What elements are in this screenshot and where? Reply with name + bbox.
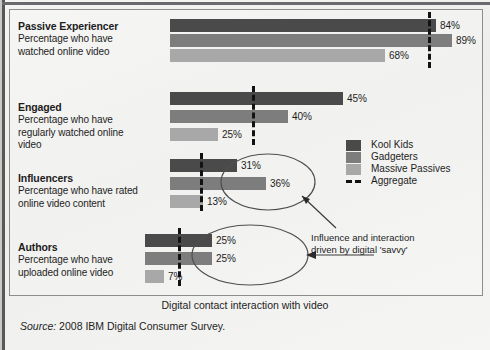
outer-frame-left — [2, 0, 5, 350]
legend-label: Gadgeters — [371, 151, 418, 163]
legend-swatch-icon — [346, 152, 361, 163]
x-axis-title: Digital contact interaction with video — [0, 299, 490, 311]
group-label-influencers: Influencers Percentage who have rated on… — [18, 172, 168, 210]
legend-label: Aggregate — [371, 175, 417, 187]
bar-value-engaged-gadgeters: 40% — [292, 110, 312, 123]
source-prefix: Source: — [20, 320, 56, 332]
annotation-text: Influence and interaction driven by digi… — [311, 232, 481, 255]
aggregate-line-passive-experiencer — [428, 12, 431, 68]
group-label-passive-experiencer: Passive Experiencer Percentage who have … — [18, 20, 168, 58]
chart-figure: Passive Experiencer Percentage who have … — [0, 0, 490, 350]
bar-value-influencers-gadgeters: 36% — [270, 177, 290, 190]
dashed-line-icon — [346, 180, 361, 183]
bar-value-passive-experiencer-kool-kids: 84% — [440, 19, 460, 32]
legend-label: Kool Kids — [371, 139, 413, 151]
bar-engaged-massive-passives — [170, 128, 218, 141]
bar-value-engaged-kool-kids: 45% — [347, 92, 367, 105]
bar-influencers-gadgeters — [170, 177, 266, 190]
group-subtitle-line1: Percentage who have — [18, 114, 168, 127]
bar-value-passive-experiencer-gadgeters: 89% — [456, 34, 476, 47]
bar-engaged-gadgeters — [170, 110, 288, 123]
bar-influencers-massive-passives — [170, 195, 203, 208]
bar-value-influencers-kool-kids: 31% — [241, 159, 261, 172]
legend: Kool Kids Gadgeters Massive Passives Agg… — [346, 139, 478, 187]
legend-swatch-icon — [346, 140, 361, 151]
bar-passive-experiencer-gadgeters — [170, 34, 452, 47]
group-title: Passive Experiencer — [18, 20, 168, 33]
bar-passive-experiencer-kool-kids — [170, 19, 436, 32]
bar-passive-experiencer-massive-passives — [170, 49, 385, 62]
group-label-engaged: Engaged Percentage who have regularly wa… — [18, 101, 168, 152]
group-subtitle-line2: regularly watched online — [18, 127, 168, 140]
bar-influencers-kool-kids — [170, 159, 237, 172]
bar-value-passive-experiencer-massive-passives: 68% — [389, 49, 409, 62]
annotation-line-1: Influence and interaction — [311, 232, 481, 244]
group-subtitle-line2: online video content — [18, 198, 168, 211]
bar-authors-massive-passives — [145, 270, 164, 283]
group-title: Engaged — [18, 101, 168, 114]
aggregate-line-influencers — [200, 153, 203, 211]
aggregate-line-engaged — [252, 86, 255, 145]
legend-label: Massive Passives — [371, 163, 450, 175]
bar-value-influencers-massive-passives: 13% — [207, 195, 227, 208]
outer-frame-top — [2, 2, 490, 5]
legend-item-kool-kids: Kool Kids — [346, 139, 478, 151]
bar-engaged-kool-kids — [170, 92, 343, 105]
group-subtitle-line1: Percentage who have — [18, 33, 168, 46]
group-subtitle-line1: Percentage who have rated — [18, 185, 168, 198]
bar-value-authors-gadgeters: 25% — [216, 252, 236, 265]
bar-value-engaged-massive-passives: 25% — [222, 128, 242, 141]
group-title: Influencers — [18, 172, 168, 185]
legend-item-aggregate: Aggregate — [346, 175, 478, 187]
legend-item-massive-passives: Massive Passives — [346, 163, 478, 175]
aggregate-line-authors — [178, 228, 181, 286]
bar-value-authors-kool-kids: 25% — [216, 234, 236, 247]
group-subtitle-line2: watched online video — [18, 46, 168, 59]
source-note: Source: 2008 IBM Digital Consumer Survey… — [20, 320, 225, 332]
source-text: 2008 IBM Digital Consumer Survey. — [59, 320, 225, 332]
legend-swatch-icon — [346, 164, 361, 175]
group-subtitle-line3: video — [18, 139, 168, 152]
legend-item-gadgeters: Gadgeters — [346, 151, 478, 163]
annotation-line-2: driven by digital 'savvy' — [311, 244, 481, 256]
